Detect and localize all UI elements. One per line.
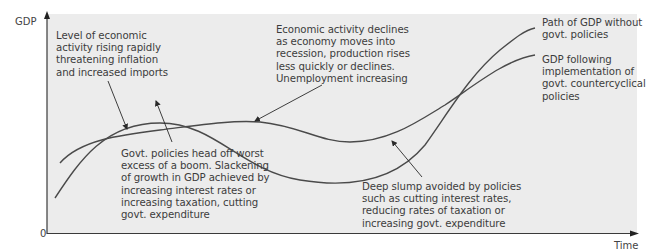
x-axis	[47, 231, 639, 237]
arrow-head-off	[156, 101, 172, 142]
annotation-boom: Level of economic activity rising rapidl…	[56, 30, 168, 79]
x-axis-label: Time	[614, 240, 638, 251]
annotation-slump-avoided: Deep slump avoided by policies such as c…	[362, 181, 521, 230]
origin-label: 0	[40, 228, 46, 239]
arrow-recession	[255, 85, 322, 121]
annotation-with-policies: GDP following implementation of govt. co…	[542, 54, 646, 103]
annotation-head-off-boom: Govt. policies head off worst excess of …	[121, 148, 270, 221]
arrow-boom	[108, 81, 127, 129]
y-axis	[44, 11, 50, 234]
annotation-recession: Economic activity declines as economy mo…	[276, 24, 410, 85]
arrow-slump	[392, 141, 422, 177]
y-axis-label: GDP	[15, 16, 36, 27]
annotation-without-policies: Path of GDP without govt. policies	[542, 17, 642, 41]
